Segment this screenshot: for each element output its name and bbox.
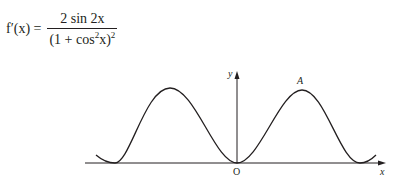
y-axis-arrow-icon xyxy=(235,71,240,79)
x-axis-label: x xyxy=(380,166,384,177)
curve-graph xyxy=(0,0,399,184)
point-a-label: A xyxy=(297,75,303,86)
x-axis-arrow-icon xyxy=(378,161,386,166)
y-axis-label: y xyxy=(228,68,232,79)
origin-label: O xyxy=(233,166,240,177)
function-curve xyxy=(96,88,376,163)
